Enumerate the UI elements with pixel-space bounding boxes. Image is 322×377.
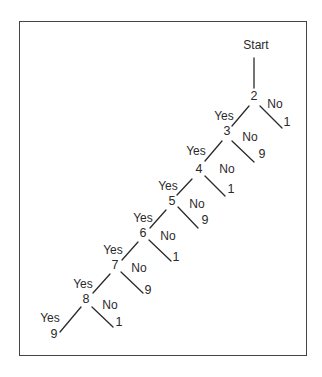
yes-edge-3 — [205, 141, 222, 161]
no-edge-3 — [232, 141, 254, 162]
yes-label-5: Yes — [133, 212, 153, 224]
yes-label-7: Yes — [73, 278, 93, 290]
node-4: 4 — [196, 163, 203, 175]
yes-edge-8 — [60, 307, 81, 332]
node-8: 8 — [83, 293, 90, 305]
leaf-7: 9 — [145, 284, 152, 296]
yes-edge-4 — [177, 179, 192, 195]
no-label-6: No — [160, 230, 175, 242]
no-label-7: No — [131, 262, 146, 274]
yes-edge-6 — [122, 242, 138, 260]
yes-edge-7 — [93, 274, 110, 293]
no-label-4: No — [219, 163, 234, 175]
start-label: Start — [243, 39, 268, 51]
leaf-6: 1 — [173, 251, 180, 263]
node-3: 3 — [224, 125, 231, 137]
yes-label-4: Yes — [158, 180, 178, 192]
leaf-5: 9 — [202, 214, 209, 226]
yes-label-3: Yes — [186, 145, 206, 157]
no-label-2: No — [267, 98, 282, 110]
node-2: 2 — [251, 90, 258, 102]
no-label-5: No — [189, 198, 204, 210]
no-edge-7 — [121, 272, 143, 293]
leaf-3: 9 — [259, 148, 266, 160]
yes-edge-2 — [232, 106, 249, 126]
no-edge-4 — [205, 176, 225, 196]
no-edge-6 — [149, 240, 171, 261]
leaf-2: 1 — [284, 116, 291, 128]
no-label-8: No — [102, 299, 117, 311]
leaf-4: 1 — [228, 183, 235, 195]
yes-label-8: Yes — [40, 312, 60, 324]
node-5: 5 — [169, 195, 176, 207]
leaf-8: 1 — [116, 316, 123, 328]
yes-label-2: Yes — [214, 110, 234, 122]
no-label-3: No — [242, 131, 257, 143]
node-7: 7 — [112, 259, 119, 271]
node-6: 6 — [140, 227, 147, 239]
yes-label-6: Yes — [103, 244, 123, 256]
final-leaf: 9 — [51, 328, 58, 340]
